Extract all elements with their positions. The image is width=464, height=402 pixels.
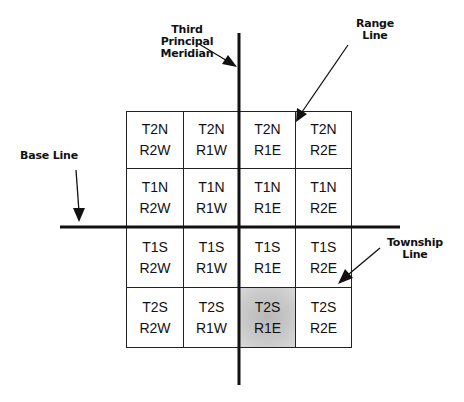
meridian-arrow-icon (199, 44, 237, 67)
base-line-arrow-icon (73, 170, 85, 222)
township-line-arrow-icon (338, 248, 380, 284)
diagram-lines (0, 0, 464, 402)
range-line-arrow-icon (296, 45, 348, 122)
